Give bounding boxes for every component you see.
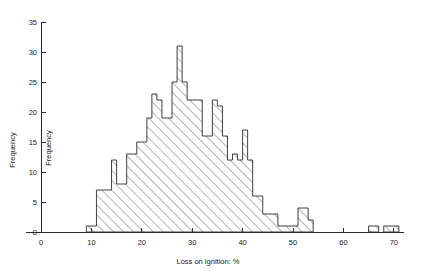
histogram-bar-41 [248, 160, 253, 232]
y-tick-label-30: 30 [29, 48, 37, 57]
histogram-bar-53 [308, 220, 313, 232]
histogram-bar-15 [117, 184, 122, 232]
histogram-bar-50 [293, 226, 298, 232]
histogram-bar-16 [122, 184, 127, 232]
x-tick-label-10: 10 [87, 238, 95, 247]
y-tick-label-10: 10 [29, 168, 37, 177]
x-tick-label-30: 30 [188, 238, 196, 247]
histogram-bar-34 [212, 100, 217, 232]
histogram-plot: 01020304050607005101520253035 Loss on ig… [0, 0, 421, 279]
histogram-bar-30 [192, 100, 197, 232]
histogram-bar-12 [101, 190, 106, 232]
histogram-bar-43 [258, 196, 263, 232]
histogram-bar-33 [207, 136, 212, 232]
histogram-bar-21 [147, 118, 152, 232]
histogram-bar-49 [288, 226, 293, 232]
histogram-bar-11 [96, 190, 101, 232]
x-tick-label-20: 20 [138, 238, 146, 247]
x-tick-label-60: 60 [339, 238, 347, 247]
histogram-bar-22 [152, 94, 157, 232]
histogram-bar-46 [273, 214, 278, 232]
histogram-bar-9 [86, 226, 91, 232]
histogram-bar-66 [374, 226, 379, 232]
histogram-bar-37 [227, 160, 232, 232]
bars-outline-layer [86, 46, 398, 232]
histogram-bar-39 [238, 160, 243, 232]
x-tick-label-50: 50 [289, 238, 297, 247]
histogram-bar-19 [137, 142, 142, 232]
histogram-bar-48 [283, 226, 288, 232]
histogram-bar-27 [177, 46, 182, 232]
y-tick-label-0: 0 [33, 228, 37, 237]
histogram-bar-14 [112, 160, 117, 232]
y-axis-title-inner: Frequency [44, 130, 53, 166]
histogram-bar-20 [142, 142, 147, 232]
histogram-bar-13 [107, 190, 112, 232]
histogram-bar-36 [222, 136, 227, 232]
histogram-bar-28 [182, 82, 187, 232]
histogram-bar-52 [303, 208, 308, 232]
histogram-bar-42 [253, 196, 258, 232]
histogram-bar-31 [197, 100, 202, 232]
histogram-bar-51 [298, 208, 303, 232]
x-axis-title: Loss on ignition: % [177, 257, 240, 266]
x-tick-label-70: 70 [390, 238, 398, 247]
y-tick-label-35: 35 [29, 18, 37, 27]
histogram-bar-25 [167, 118, 172, 232]
histogram-bar-69 [389, 226, 394, 232]
histogram-bar-26 [172, 82, 177, 232]
histogram-bar-45 [268, 214, 273, 232]
histogram-bar-38 [233, 154, 238, 232]
histogram-bar-24 [162, 118, 167, 232]
histogram-bar-10 [91, 226, 96, 232]
histogram-bar-65 [369, 226, 374, 232]
x-tick-label-40: 40 [238, 238, 246, 247]
histogram-bar-17 [127, 154, 132, 232]
x-tick-label-0: 0 [39, 238, 43, 247]
histogram-bar-23 [157, 100, 162, 232]
histogram-bar-47 [278, 226, 283, 232]
y-tick-label-20: 20 [29, 108, 37, 117]
histogram-bar-68 [384, 226, 389, 232]
histogram-figure: 01020304050607005101520253035 Loss on ig… [0, 0, 421, 279]
histogram-bar-29 [187, 100, 192, 232]
histogram-bar-35 [217, 106, 222, 232]
histogram-bar-40 [243, 130, 248, 232]
y-tick-label-15: 15 [29, 138, 37, 147]
histogram-bar-70 [394, 226, 399, 232]
histogram-bar-44 [263, 214, 268, 232]
y-axis-title: Frequency [8, 132, 17, 168]
y-tick-label-5: 5 [33, 198, 37, 207]
histogram-bar-32 [202, 136, 207, 232]
y-tick-label-25: 25 [29, 78, 37, 87]
histogram-bar-18 [132, 154, 137, 232]
